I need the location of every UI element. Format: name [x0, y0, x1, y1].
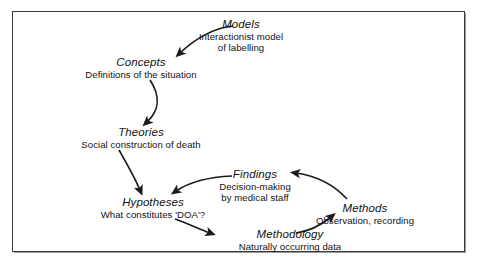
diagram-page: Models Interactionist model of labelling… — [0, 0, 479, 276]
node-findings: Findings Decision-making by medical staf… — [200, 168, 310, 203]
node-findings-subtitle-line1: Decision-making — [200, 181, 310, 192]
node-models: Models Interactionist model of labelling — [181, 18, 301, 53]
node-concepts: Concepts Definitions of the situation — [46, 56, 236, 80]
node-models-title: Models — [181, 18, 301, 31]
node-methods: Methods Observation, recording — [295, 202, 435, 226]
node-findings-title: Findings — [200, 168, 310, 181]
edge-concepts-to-theories — [147, 80, 157, 122]
node-methodology-title: Methodology — [215, 228, 365, 241]
node-methods-title: Methods — [295, 202, 435, 215]
node-theories-title: Theories — [46, 126, 236, 139]
node-findings-subtitle-line2: by medical staff — [200, 192, 310, 203]
node-methodology-subtitle: Naturally occurring data — [215, 241, 365, 252]
edge-hypotheses-to-methodology — [175, 219, 210, 233]
node-models-subtitle-line2: of labelling — [181, 42, 301, 53]
node-methodology: Methodology Naturally occurring data — [215, 228, 365, 252]
node-methods-subtitle: Observation, recording — [295, 215, 435, 226]
node-hypotheses-subtitle: What constitutes 'DOA'? — [78, 209, 228, 220]
node-theories: Theories Social construction of death — [46, 126, 236, 150]
node-models-subtitle-line1: Interactionist model — [181, 31, 301, 42]
node-concepts-title: Concepts — [46, 56, 236, 69]
edge-theories-to-hypotheses — [119, 150, 140, 190]
node-concepts-subtitle: Definitions of the situation — [46, 69, 236, 80]
node-theories-subtitle: Social construction of death — [46, 139, 236, 150]
